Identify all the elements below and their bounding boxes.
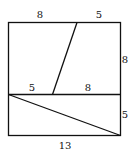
label-bottom: 13 <box>59 140 72 151</box>
label-right-upper: 8 <box>122 54 128 65</box>
outer-square <box>9 23 121 136</box>
label-right-lower: 5 <box>122 109 128 120</box>
label-middle-right: 8 <box>85 82 91 93</box>
label-middle-left: 5 <box>29 82 35 93</box>
dissection-diagram: 8 5 8 5 8 5 13 <box>0 0 133 153</box>
label-top-left: 8 <box>37 9 43 20</box>
lower-diagonal-line <box>9 95 121 136</box>
label-top-right: 5 <box>96 9 102 20</box>
upper-slant-line <box>53 23 78 95</box>
